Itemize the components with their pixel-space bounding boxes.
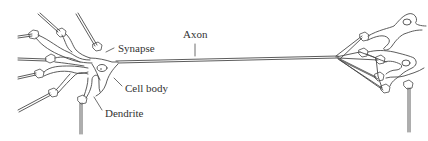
incoming-axon-right — [408, 88, 410, 132]
dendrite-label: Dendrite — [105, 108, 143, 119]
synapse-label: Synapse — [118, 43, 155, 54]
dendrite-leader-line — [94, 97, 102, 110]
synapse-leader-line — [106, 48, 114, 52]
neuron-illustration — [0, 0, 428, 141]
synapses-right — [359, 32, 413, 93]
cell-body-label: Cell body — [125, 83, 168, 94]
nucleus — [97, 65, 107, 72]
axon — [116, 56, 338, 63]
neuron-diagram: Synapse Axon Cell body Dendrite — [0, 0, 428, 141]
axon-label: Axon — [183, 29, 207, 40]
dendrites — [36, 34, 100, 98]
cell-body-leader-line — [114, 78, 122, 86]
axon-terminals — [336, 36, 383, 90]
cell-body — [90, 58, 118, 96]
